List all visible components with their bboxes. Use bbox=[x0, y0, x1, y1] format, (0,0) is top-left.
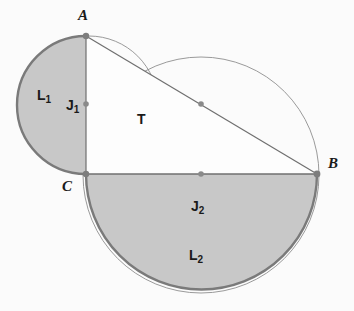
region-label-J2-text: J bbox=[191, 198, 199, 214]
vertex-label-A: A bbox=[78, 8, 88, 23]
region-label-T: T bbox=[137, 112, 146, 126]
region-label-J1-sub: 1 bbox=[74, 104, 80, 115]
region-label-L2: L2 bbox=[189, 248, 203, 262]
vertex-dot-A bbox=[83, 33, 89, 39]
region-label-L2-text: L bbox=[189, 247, 198, 263]
midpoint-dot-AB bbox=[198, 101, 204, 107]
region-label-L2-sub: 2 bbox=[198, 254, 204, 265]
vertex-dot-B bbox=[314, 171, 321, 178]
geometry-figure: A B C T J1 J2 L1 L2 bbox=[0, 0, 354, 311]
region-label-L1: L1 bbox=[37, 88, 51, 102]
region-label-J2: J2 bbox=[191, 199, 204, 213]
midpoint-dot-CB bbox=[198, 171, 204, 177]
region-label-J2-sub: 2 bbox=[199, 205, 205, 216]
figure-canvas bbox=[0, 0, 354, 311]
region-label-T-text: T bbox=[137, 111, 146, 127]
region-label-L1-text: L bbox=[37, 87, 46, 103]
vertex-dot-C bbox=[83, 171, 89, 177]
region-label-L1-sub: 1 bbox=[46, 94, 52, 105]
midpoint-dot-AC bbox=[83, 101, 89, 107]
vertex-label-C: C bbox=[62, 179, 72, 194]
vertex-label-B: B bbox=[328, 156, 338, 171]
region-label-J1-text: J bbox=[66, 97, 74, 113]
region-label-J1: J1 bbox=[66, 98, 79, 112]
